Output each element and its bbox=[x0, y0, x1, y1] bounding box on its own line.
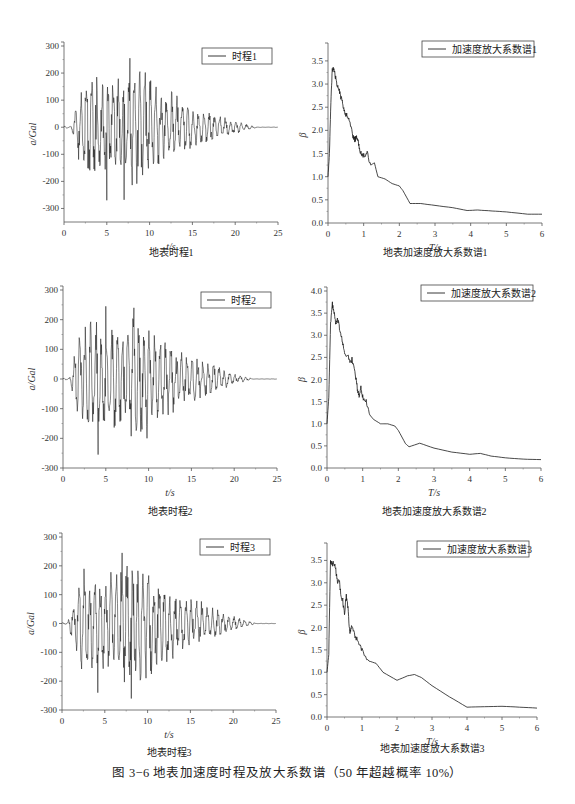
y-tick-label: 1.5 bbox=[311, 645, 323, 655]
legend-label: 加速度放大系数谱3 bbox=[447, 543, 532, 555]
y-tick-label: 3.5 bbox=[311, 555, 323, 565]
y-tick-label: 3.0 bbox=[311, 578, 323, 588]
x-tick-label: 5 bbox=[500, 723, 505, 733]
y-tick-label: 2.5 bbox=[311, 600, 323, 610]
x-tick-label: 2 bbox=[395, 723, 400, 733]
chart-caption-6: 地表加速度放大系数谱3 bbox=[327, 740, 537, 755]
y-axis-label: β bbox=[296, 629, 307, 635]
y-tick-label: 2.0 bbox=[311, 623, 323, 633]
x-tick-label: 0 bbox=[325, 723, 330, 733]
x-tick-label: 6 bbox=[535, 723, 540, 733]
spectrum-plot-3: 0.00.51.01.52.02.53.03.50123456T/sβ加速度放大… bbox=[0, 0, 575, 760]
x-tick-label: 3 bbox=[430, 723, 435, 733]
data-series-line bbox=[327, 560, 537, 708]
x-tick-label: 1 bbox=[360, 723, 365, 733]
spectrum-chart-3: 0.00.51.01.52.02.53.03.50123456T/sβ加速度放大… bbox=[0, 0, 575, 760]
figure-caption: 图 3−6 地表加速度时程及放大系数谱（50 年超越概率 10%） bbox=[0, 762, 575, 781]
y-tick-label: 1.0 bbox=[311, 667, 323, 677]
y-tick-label: 0.0 bbox=[311, 712, 323, 722]
x-tick-label: 4 bbox=[465, 723, 470, 733]
y-tick-label: 0.5 bbox=[311, 690, 323, 700]
